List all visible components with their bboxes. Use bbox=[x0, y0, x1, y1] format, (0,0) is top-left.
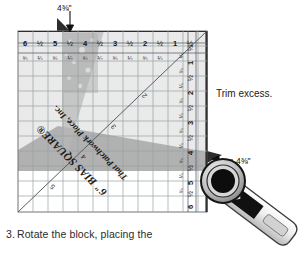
right-major-0: ½ bbox=[186, 44, 195, 51]
right-major-8: ½ bbox=[186, 164, 195, 171]
top-major-9: ½ bbox=[157, 39, 164, 48]
right-major-11: 6 bbox=[186, 205, 195, 209]
right-major-9: 5 bbox=[186, 181, 195, 185]
top-major-5: ½ bbox=[97, 39, 104, 48]
top-major-3: ½ bbox=[67, 39, 74, 48]
top-major-7: ½ bbox=[127, 39, 134, 48]
top-major-2: 5 bbox=[53, 39, 57, 48]
right-major-2: ½ bbox=[186, 74, 195, 81]
cutter-blade-hub bbox=[211, 169, 235, 193]
right-major-1: 1 bbox=[186, 61, 195, 65]
dimension-label-top: 4⅜" bbox=[57, 3, 72, 13]
top-major-1: ½ bbox=[37, 39, 44, 48]
trim-excess-label: Trim excess. bbox=[216, 88, 272, 99]
top-major-6: 3 bbox=[113, 39, 117, 48]
step-number: 3. bbox=[6, 228, 17, 241]
step-caption: 3.Rotate the block, placing the bbox=[6, 228, 246, 241]
right-major-4: ½ bbox=[186, 104, 195, 111]
right-major-5: 3 bbox=[186, 121, 195, 125]
step-text: Rotate the block, placing the bbox=[17, 228, 152, 240]
top-major-8: 2 bbox=[143, 39, 147, 48]
dimension-label-right: 4⅜" bbox=[236, 156, 251, 166]
right-major-6: ½ bbox=[186, 134, 195, 141]
top-major-10: 1 bbox=[173, 39, 177, 48]
right-major-10: ½ bbox=[186, 190, 195, 197]
right-major-3: 2 bbox=[186, 91, 195, 95]
bias-square-diagram: 6 ½ 5 ½ 4 ½ 3 ½ 2 ½ 1 ½ ¾ ¼ ¾ ¼ ¾ ¼ ¾ ¼ … bbox=[0, 0, 305, 254]
top-major-0: 6 bbox=[23, 39, 27, 48]
diagonal-number-3: 5 bbox=[48, 183, 56, 191]
